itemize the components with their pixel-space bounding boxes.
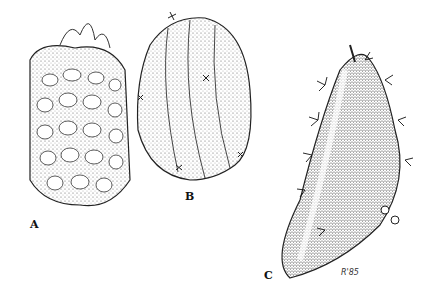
- botanical-illustration: A B C R'85: [0, 0, 435, 289]
- label-c: C: [264, 269, 273, 282]
- artist-signature: R'85: [341, 268, 359, 277]
- specimen-b-drawing: [138, 12, 252, 180]
- label-b: B: [185, 190, 194, 203]
- label-a: A: [30, 218, 39, 231]
- specimen-c-drawing: [282, 45, 413, 278]
- specimen-a-drawing: [30, 24, 130, 206]
- illustration-drawings: [0, 0, 435, 289]
